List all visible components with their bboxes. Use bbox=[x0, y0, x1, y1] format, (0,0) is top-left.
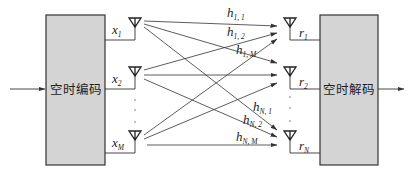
tx-antenna-1 bbox=[105, 18, 141, 40]
rx-label-N: rN bbox=[299, 138, 310, 155]
encoder-label: 空时编码 bbox=[50, 82, 102, 97]
tx-ellipsis-dot bbox=[134, 121, 135, 122]
channel-label-h12: h1, 2 bbox=[227, 24, 245, 41]
tx-label-2: x2 bbox=[111, 71, 122, 88]
channel-label-h11: h1, 1 bbox=[227, 5, 245, 22]
rx-ellipsis-dot bbox=[289, 107, 290, 108]
tx-label-1: x1 bbox=[111, 22, 122, 39]
channel-label-hNM: hN, M bbox=[236, 129, 258, 146]
channel-label-hN1: hN, 1 bbox=[253, 99, 272, 116]
mimo-space-time-coding-diagram: 空时编码 空时解码 x1 x2 xM r1 r2 bbox=[0, 0, 408, 175]
encoder-block: 空时编码 bbox=[46, 15, 105, 165]
tx-ellipsis-dot bbox=[134, 109, 135, 110]
tx-ellipsis-dot bbox=[134, 99, 135, 100]
tx-label-M: xM bbox=[111, 135, 125, 152]
channel-label-h1M: h1, M bbox=[236, 42, 257, 59]
rx-label-1: r1 bbox=[299, 25, 308, 42]
decoder-block: 空时解码 bbox=[320, 15, 378, 165]
decoder-label: 空时解码 bbox=[323, 82, 375, 97]
tx-antenna-2 bbox=[105, 67, 141, 89]
rx-ellipsis-dot bbox=[289, 120, 290, 121]
rx-label-2: r2 bbox=[299, 74, 308, 91]
rx-ellipsis-dot bbox=[289, 96, 290, 97]
